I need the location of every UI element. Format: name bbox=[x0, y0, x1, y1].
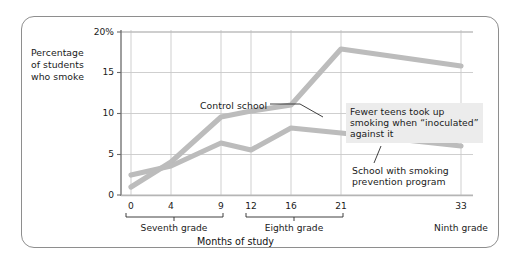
eighth-grade-bracket bbox=[246, 213, 343, 221]
chart-figure: Percentageof studentswho smoke 20% 15 10… bbox=[0, 0, 516, 265]
y-axis-title-line-1: Percentage bbox=[31, 47, 84, 58]
y-tick-label-15: 15 bbox=[80, 67, 114, 77]
y-axis-title: Percentageof studentswho smoke bbox=[31, 47, 84, 82]
annotation-prevention-program-line-1: School with smoking bbox=[352, 165, 449, 176]
y-tick-label-20: 20% bbox=[80, 27, 114, 37]
x-tick-label-33: 33 bbox=[448, 201, 474, 211]
x-axis-title: Months of study bbox=[197, 236, 274, 247]
x-tick-label-12: 12 bbox=[238, 201, 264, 211]
x-tick-label-9: 9 bbox=[208, 201, 234, 211]
y-tick-label-0: 0 bbox=[80, 190, 114, 200]
annotation-prevention-program: School with smokingprevention program bbox=[352, 165, 449, 188]
x-tick-label-4: 4 bbox=[158, 201, 184, 211]
x-tick-label-0: 0 bbox=[118, 201, 144, 211]
y-axis-title-line-2: of students bbox=[31, 59, 84, 70]
y-axis-title-line-3: who smoke bbox=[31, 71, 84, 82]
group-label-seventh-grade: Seventh grade bbox=[124, 223, 224, 233]
annotation-fewer-teens: Fewer teens took upsmoking when “inocula… bbox=[346, 103, 483, 143]
annotation-fewer-teens-line-3: against it bbox=[350, 128, 393, 139]
annotation-fewer-teens-line-1: Fewer teens took up bbox=[350, 106, 444, 117]
annotation-control-school: Control school bbox=[200, 100, 267, 111]
group-label-eighth-grade: Eighth grade bbox=[244, 223, 344, 233]
y-tick-label-10: 10 bbox=[80, 108, 114, 118]
annotation-prevention-program-line-2: prevention program bbox=[352, 176, 446, 187]
x-tick-label-16: 16 bbox=[278, 201, 304, 211]
x-tick-label-21: 21 bbox=[328, 201, 354, 211]
group-label-ninth-grade: Ninth grade bbox=[411, 223, 511, 233]
annotation-fewer-teens-line-2: smoking when “inoculated” bbox=[350, 117, 478, 128]
y-tick-label-5: 5 bbox=[80, 149, 114, 159]
seventh-grade-bracket bbox=[126, 213, 223, 221]
